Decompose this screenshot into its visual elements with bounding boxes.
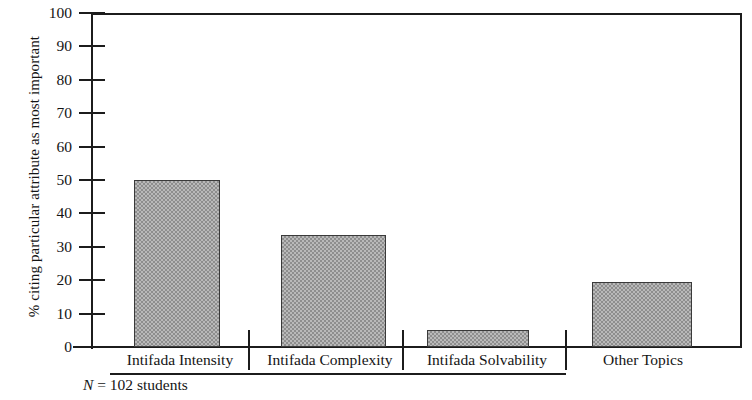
sample-size-text: = 102 students	[93, 376, 187, 393]
y-axis-tick-label: 100	[0, 5, 72, 21]
x-axis-category-label: Intifada Intensity	[110, 351, 250, 369]
y-axis-tick-label-wrap: 20	[0, 272, 72, 288]
bar	[281, 235, 386, 347]
y-axis-tick-label-wrap: 40	[0, 205, 72, 221]
y-axis-tick	[79, 179, 105, 181]
y-axis-tick	[79, 12, 105, 14]
y-axis-tick-label: 70	[0, 105, 72, 121]
y-axis-tick-label: 50	[0, 172, 72, 188]
y-axis-tick-label-wrap: 70	[0, 105, 72, 121]
y-axis-tick	[79, 313, 105, 315]
y-axis-tick-label-wrap: 50	[0, 172, 72, 188]
y-axis-tick-label-wrap: 0	[0, 339, 72, 355]
y-axis-tick	[79, 112, 105, 114]
y-axis-tick-label: 90	[0, 38, 72, 54]
y-axis-tick-label: 30	[0, 239, 72, 255]
y-axis-tick-label: 0	[0, 339, 72, 355]
x-axis-category-label: Intifada Complexity	[255, 351, 405, 369]
bar	[134, 180, 220, 347]
x-axis-category-label: Other Topics	[572, 351, 714, 369]
y-axis-tick-label-wrap: 10	[0, 306, 72, 322]
y-axis-tick	[79, 212, 105, 214]
y-axis-tick	[79, 246, 105, 248]
category-separator-tick	[565, 330, 567, 352]
y-axis-tick-label: 20	[0, 272, 72, 288]
x-axis-category-label: Intifada Solvability	[408, 351, 566, 369]
y-axis-tick	[79, 279, 105, 281]
y-axis-tick-label-wrap: 30	[0, 239, 72, 255]
y-axis-tick	[79, 45, 105, 47]
y-axis-tick-label-wrap: 100	[0, 5, 72, 21]
bar	[592, 282, 692, 347]
sample-size-symbol: N	[83, 376, 93, 393]
y-axis-tick-label: 10	[0, 306, 72, 322]
category-separator-tick	[402, 330, 404, 352]
category-group-underline	[110, 373, 566, 375]
y-axis-tick-label: 80	[0, 72, 72, 88]
y-axis-tick	[79, 346, 105, 348]
bar-chart-figure: % citing particular attribute as most im…	[0, 0, 752, 400]
y-axis-tick-label: 60	[0, 139, 72, 155]
y-axis-tick-label: 40	[0, 205, 72, 221]
sample-size-note: N = 102 students	[83, 376, 188, 394]
bar	[427, 330, 529, 347]
y-axis-tick	[79, 79, 105, 81]
category-separator-tick	[248, 330, 250, 352]
y-axis-tick-label-wrap: 60	[0, 139, 72, 155]
y-axis-tick-label-wrap: 80	[0, 72, 72, 88]
y-axis-tick-label-wrap: 90	[0, 38, 72, 54]
y-axis-tick	[79, 146, 105, 148]
